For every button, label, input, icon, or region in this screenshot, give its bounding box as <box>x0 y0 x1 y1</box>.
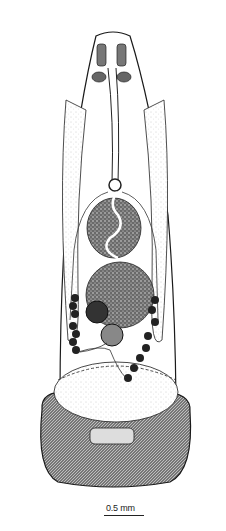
specimen-illustration <box>0 0 226 531</box>
scale-bar <box>104 515 144 516</box>
pharynx <box>109 179 121 191</box>
seminal-vesicle <box>101 324 123 346</box>
scale-bar-label: 0.5 mm <box>106 503 135 513</box>
haptor-inner <box>54 362 178 422</box>
ovary <box>86 301 108 323</box>
anterior-organ-left <box>97 44 106 66</box>
anterior-organ-right <box>117 44 126 66</box>
haptor-notch <box>90 428 134 444</box>
